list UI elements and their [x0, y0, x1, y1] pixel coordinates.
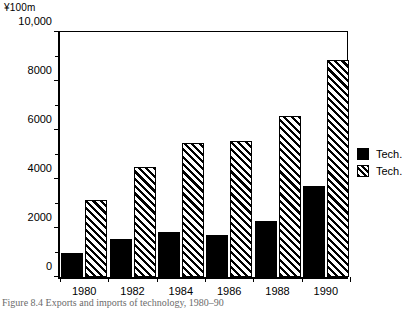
bar-1988-solid	[255, 221, 277, 277]
bar-1990-solid	[303, 186, 325, 277]
y-axis-tick-mark	[54, 227, 60, 228]
legend-label: Tech.	[376, 148, 402, 160]
bar-1986-solid	[206, 235, 228, 277]
y-axis-minor-tick-mark	[55, 154, 60, 155]
y-axis-minor-tick-mark	[55, 105, 60, 106]
y-axis-tick-label: 8000	[28, 65, 52, 76]
y-axis-unit-label: ¥100m	[4, 2, 36, 14]
x-axis-tick-mark	[157, 277, 158, 282]
x-axis-tick-mark	[302, 277, 303, 282]
y-axis-tick-mark	[54, 178, 60, 179]
y-axis-tick-mark	[54, 80, 60, 81]
x-axis-tick-label-1980: 1980	[72, 285, 96, 297]
bar-1984-hatched	[182, 143, 204, 277]
x-axis-tick-mark	[108, 277, 109, 282]
bar-1980-solid	[61, 253, 83, 277]
legend-swatch-solid	[357, 148, 369, 160]
y-axis-minor-tick-mark	[55, 56, 60, 57]
x-axis-tick-mark	[253, 277, 254, 282]
x-axis-tick-label-1982: 1982	[120, 285, 144, 297]
bar-1988-hatched	[279, 116, 301, 277]
y-axis-tick-label: 2000	[28, 212, 52, 223]
legend-label: Tech.	[376, 165, 402, 177]
chart-plot-area: 0200040006000800010,000 1980198219841986…	[58, 31, 348, 279]
bar-1980-hatched	[85, 200, 107, 277]
y-axis-minor-tick-mark	[55, 203, 60, 204]
legend-swatch-hatched	[357, 165, 369, 177]
x-axis-tick-label-1990: 1990	[314, 285, 338, 297]
y-axis-tick-label: 4000	[28, 163, 52, 174]
x-axis-tick-label-1988: 1988	[265, 285, 289, 297]
legend-item-1: Tech.	[357, 163, 416, 178]
bar-1982-hatched	[134, 167, 156, 277]
bar-1984-solid	[158, 232, 180, 277]
figure-caption: Figure 8.4 Exports and imports of techno…	[2, 297, 224, 309]
y-axis-tick-mark	[54, 129, 60, 130]
x-axis-tick-label-1984: 1984	[169, 285, 193, 297]
y-axis-tick-label: 10,000	[18, 16, 52, 27]
y-axis-tick-label: 6000	[28, 114, 52, 125]
chart-legend: Tech.Tech.	[357, 146, 416, 180]
y-axis-tick-mark	[54, 31, 60, 32]
x-axis-tick-mark	[205, 277, 206, 282]
x-axis-tick-label-1986: 1986	[217, 285, 241, 297]
x-axis-tick-mark	[350, 277, 351, 282]
bar-1990-hatched	[327, 60, 349, 277]
x-axis-tick-mark	[60, 277, 61, 282]
bar-1982-solid	[110, 239, 132, 277]
legend-item-0: Tech.	[357, 146, 416, 161]
y-axis-minor-tick-mark	[55, 252, 60, 253]
y-axis-tick-label: 0	[46, 261, 52, 272]
bar-1986-hatched	[230, 141, 252, 277]
